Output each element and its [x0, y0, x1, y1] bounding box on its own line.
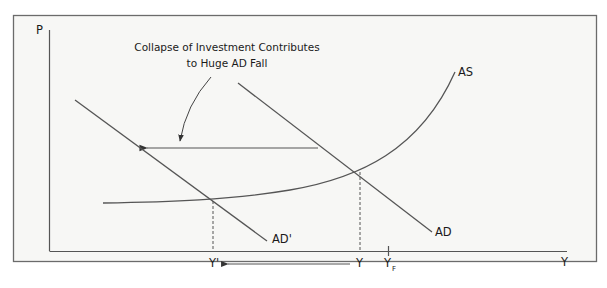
- price-axis-label: P: [36, 23, 43, 37]
- annotation-line-2: to Huge AD Fall: [187, 57, 268, 69]
- yf-subscript: F: [392, 265, 396, 273]
- ad-prime-label: AD': [272, 232, 292, 246]
- y-prime-label: Y': [208, 256, 219, 270]
- y-label: Y: [355, 256, 364, 270]
- yf-label: Y: [383, 256, 392, 270]
- as-label: AS: [458, 65, 473, 79]
- annotation-line-1: Collapse of Investment Contributes: [134, 41, 319, 53]
- output-axis-label: Y: [560, 255, 569, 269]
- ad-as-diagram: P Y Collapse of Investment Contributes t…: [0, 0, 607, 288]
- ad-label: AD: [435, 225, 452, 239]
